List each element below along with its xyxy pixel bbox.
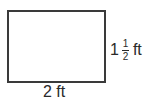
fraction-denominator: 2 — [123, 52, 129, 62]
height-fraction: 1 2 — [122, 39, 129, 62]
width-label: 2 ft — [43, 83, 65, 101]
fraction-numerator: 1 — [123, 39, 129, 49]
height-whole: 1 — [110, 41, 119, 59]
rectangle-shape — [7, 10, 106, 83]
height-unit: ft — [133, 41, 142, 59]
height-label: 1 1 2 ft — [110, 38, 142, 62]
